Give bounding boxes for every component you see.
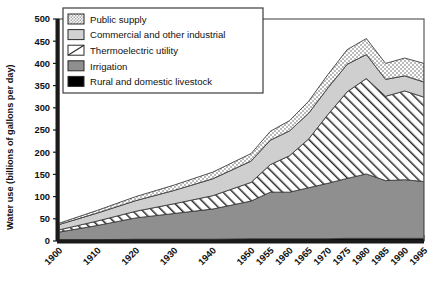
y-axis-line (56, 19, 60, 241)
y-tick-label: 450 (34, 37, 50, 47)
legend-swatch (68, 14, 84, 24)
water-use-area-chart: Water use (billions of gallons per day) … (0, 0, 439, 283)
legend-swatch (68, 30, 84, 40)
x-tick-label: 1990 (389, 245, 411, 267)
legend-label: Rural and domestic livestock (90, 76, 212, 87)
x-tick-label: 1975 (331, 245, 353, 267)
x-tick-label: 1930 (158, 245, 180, 267)
y-tick-label: 0 (45, 236, 50, 246)
legend-label: Thermoelectric utility (90, 45, 178, 56)
x-tick-label: 1970 (312, 245, 334, 267)
x-tick-label: 1950 (235, 245, 257, 267)
chart-container: Water use (billions of gallons per day) … (0, 0, 439, 283)
x-tick-label: 1960 (273, 245, 295, 267)
y-tick-label: 50 (40, 214, 50, 224)
y-tick-label: 250 (34, 125, 50, 135)
x-tick-label: 1920 (120, 245, 142, 267)
y-tick-label: 400 (34, 59, 50, 69)
legend-swatch (68, 61, 84, 71)
legend-label: Irrigation (90, 61, 127, 72)
y-tick-label: 500 (34, 14, 50, 24)
legend-swatch (68, 76, 84, 86)
legend-label: Public supply (90, 14, 147, 25)
x-tick-label: 1955 (254, 245, 276, 267)
y-tick-label: 150 (34, 170, 50, 180)
y-axis-title: Water use (billions of gallons per day) (5, 64, 15, 230)
x-tick-label: 1985 (369, 245, 391, 267)
x-tick-label: 1980 (350, 245, 372, 267)
y-tick-label: 350 (34, 81, 50, 91)
x-tick-label: 1940 (196, 245, 218, 267)
y-tick-label: 100 (34, 192, 50, 202)
chart-legend: Public supplyCommercial and other indust… (63, 8, 263, 93)
x-tick-label: 1995 (408, 245, 430, 267)
x-tick-label: 1900 (43, 245, 65, 267)
x-tick-label: 1965 (292, 245, 314, 267)
y-tick-label: 200 (34, 148, 50, 158)
y-axis-title-group: Water use (billions of gallons per day) (5, 64, 15, 230)
y-tick-label: 300 (34, 103, 50, 113)
x-axis-line (57, 240, 424, 244)
y-axis-ticks: 050100150200250300350400450500 (34, 14, 59, 246)
x-tick-label: 1910 (81, 245, 103, 267)
legend-label: Commercial and other industrial (90, 29, 225, 40)
